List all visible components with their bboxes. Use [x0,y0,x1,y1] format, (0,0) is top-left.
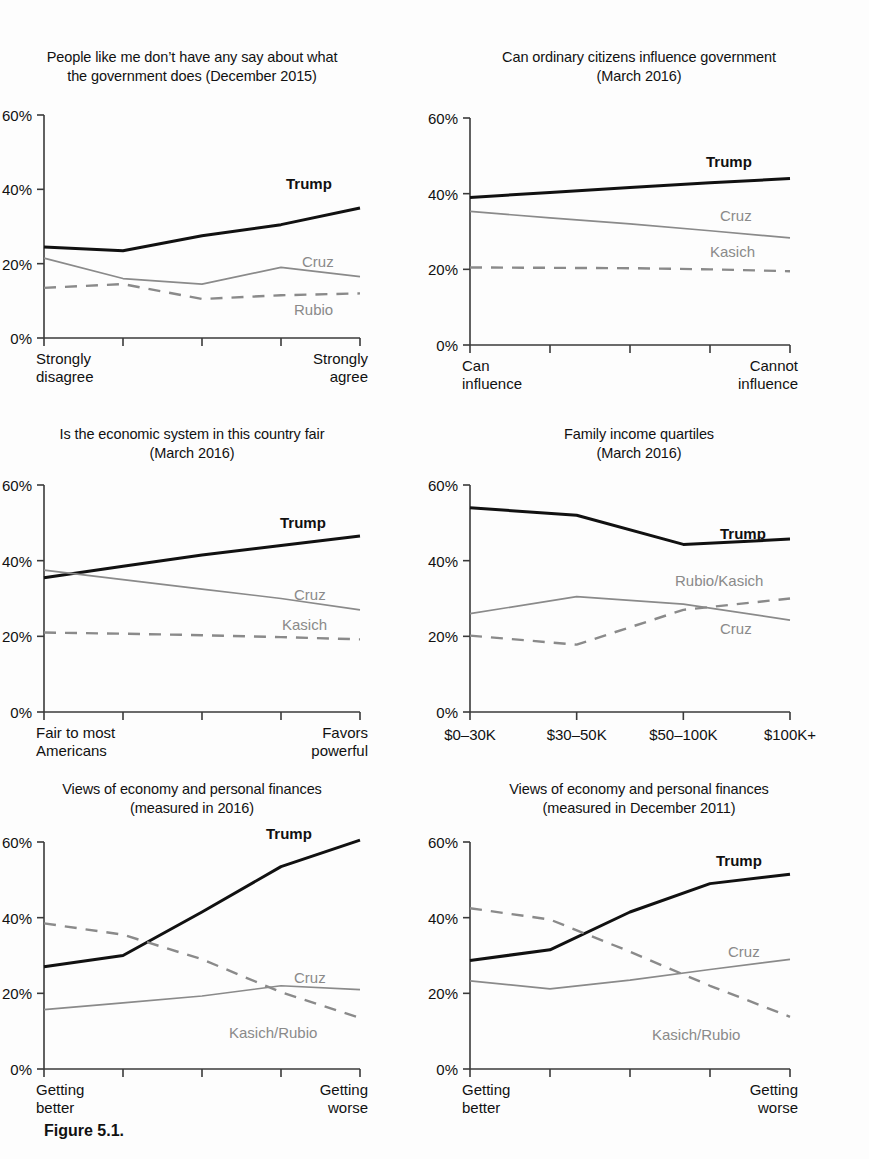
x-category-label: $50–100K [649,726,717,743]
x-axis-left-label: Getting better [462,1081,612,1117]
series-line-trump [44,208,360,251]
panel-title: People like me don’t have any say about … [0,48,392,86]
x-category-label: $30–50K [547,726,607,743]
series-line-trump [470,179,790,198]
x-axis-right-label: Strongly agree [218,350,368,386]
figure-5-1: People like me don’t have any say about … [0,0,869,1159]
y-tick-label: 40% [0,909,32,926]
y-tick-label: 0% [0,704,32,721]
series-line-kasich-rubio [470,908,790,1017]
panel-title: Family income quartiles (March 2016) [424,425,854,463]
series-label-cruz: Cruz [294,586,326,603]
series-label-trump: Trump [280,514,326,531]
series-label-kasich-rubio: Kasich/Rubio [229,1024,317,1041]
plot-area [470,485,790,712]
y-tick-label: 60% [408,110,458,127]
x-category-label: $0–30K [444,726,496,743]
x-axis-left-label: Strongly disagree [36,350,186,386]
series-label-cruz: Cruz [302,253,334,270]
y-tick-label: 0% [0,330,32,347]
y-tick-label: 20% [0,985,32,1002]
y-tick-label: 40% [408,185,458,202]
series-label-cruz: Cruz [720,620,752,637]
series-label-cruz: Cruz [720,207,752,224]
series-label-kasich: Kasich [282,616,327,633]
figure-caption: Figure 5.1. [44,1122,124,1140]
y-tick-label: 40% [408,552,458,569]
y-tick-label: 60% [0,477,32,494]
y-tick-label: 0% [408,704,458,721]
y-tick-label: 40% [408,909,458,926]
y-tick-label: 0% [408,1061,458,1078]
y-tick-label: 20% [0,255,32,272]
series-line-trump [44,536,360,578]
chart-panel-panel-economy-2011: Views of economy and personal finances (… [424,780,854,1132]
series-line-rubio-kasich [470,597,790,620]
chart-panel-panel-say-government: People like me don’t have any say about … [0,48,392,403]
panel-title: Is the economic system in this country f… [0,425,392,463]
series-line-cruz [44,986,360,1010]
y-tick-label: 20% [0,628,32,645]
y-tick-label: 0% [408,337,458,354]
y-tick-label: 60% [0,107,32,124]
panel-title: Views of economy and personal finances (… [0,780,392,818]
chart-panel-panel-economic-system-fair: Is the economic system in this country f… [0,425,392,775]
series-line-kasich [470,267,790,271]
series-line-cruz [470,959,790,989]
y-tick-label: 60% [0,834,32,851]
series-label-cruz: Cruz [728,943,760,960]
series-label-cruz: Cruz [294,969,326,986]
series-label-kasich: Kasich [710,243,755,260]
series-label-rubio-kasich: Rubio/Kasich [675,572,763,589]
series-label-trump: Trump [716,852,762,869]
x-axis-right-label: Getting worse [218,1081,368,1117]
chart-panel-panel-economy-2016: Views of economy and personal finances (… [0,780,392,1132]
series-line-kasich [44,633,360,640]
y-tick-label: 0% [0,1061,32,1078]
y-tick-label: 20% [408,985,458,1002]
chart-panel-panel-family-income: Family income quartiles (March 2016)60%4… [424,425,854,775]
y-tick-label: 60% [408,477,458,494]
series-line-trump [44,840,360,967]
panel-title: Views of economy and personal finances (… [424,780,854,818]
y-tick-label: 40% [0,552,32,569]
series-label-trump: Trump [720,525,766,542]
y-tick-label: 20% [408,261,458,278]
series-label-trump: Trump [286,175,332,192]
x-axis-left-label: Can influence [462,357,612,393]
x-axis-right-label: Getting worse [648,1081,798,1117]
y-tick-label: 20% [408,628,458,645]
y-tick-label: 60% [408,834,458,851]
series-label-trump: Trump [266,825,312,842]
x-axis-right-label: Favors powerful [218,724,368,760]
chart-panel-panel-ordinary-citizens: Can ordinary citizens influence governme… [424,48,854,403]
series-label-kasich-rubio: Kasich/Rubio [652,1026,740,1043]
series-line-rubio [44,284,360,299]
x-axis-right-label: Cannot influence [648,357,798,393]
series-label-trump: Trump [706,153,752,170]
x-axis-left-label: Getting better [36,1081,186,1117]
panel-title: Can ordinary citizens influence governme… [424,48,854,86]
y-tick-label: 40% [0,181,32,198]
x-axis-left-label: Fair to most Americans [36,724,186,760]
series-label-rubio: Rubio [294,301,333,318]
x-category-label: $100K+ [764,726,816,743]
